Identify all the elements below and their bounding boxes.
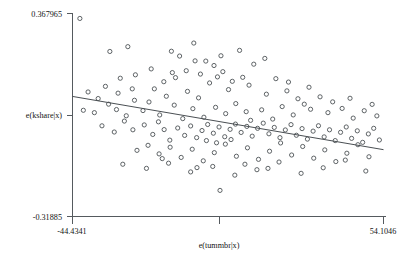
data-point (211, 131, 215, 135)
data-point (285, 89, 289, 93)
data-point (266, 166, 270, 170)
data-point (234, 101, 238, 105)
data-point (212, 63, 216, 67)
data-point (207, 81, 211, 85)
data-point (344, 125, 348, 129)
data-point (189, 124, 193, 128)
data-point (326, 111, 330, 115)
data-point (131, 128, 135, 132)
data-point (264, 92, 268, 96)
data-point (261, 121, 265, 125)
data-point (195, 166, 199, 170)
data-point (166, 161, 170, 165)
data-point (312, 156, 316, 160)
y-axis-title: e(kshare|x) (26, 111, 62, 120)
data-point (323, 148, 327, 152)
data-point (305, 137, 309, 141)
data-point (361, 140, 365, 144)
x-axis-max-tick-label: 54.1046 (370, 227, 397, 236)
data-point (169, 49, 173, 53)
data-point (206, 122, 210, 126)
data-point (211, 164, 215, 168)
data-point (190, 147, 194, 151)
data-point (377, 138, 381, 142)
regression-fit-line (73, 96, 384, 149)
data-point (214, 141, 218, 145)
data-point (338, 130, 342, 134)
data-point (223, 135, 227, 139)
data-point (362, 109, 366, 113)
data-point (178, 54, 182, 58)
data-point (229, 137, 233, 141)
data-point (204, 59, 208, 63)
data-point (176, 126, 180, 130)
data-point (179, 155, 183, 159)
x-axis-min-tick-label: -44.4341 (57, 227, 86, 236)
data-point (223, 142, 227, 146)
data-point (147, 100, 151, 104)
data-point (224, 112, 228, 116)
data-point (195, 136, 199, 140)
data-point (201, 159, 205, 163)
data-point (81, 108, 85, 112)
data-point (86, 90, 90, 94)
data-point (283, 128, 287, 132)
data-point (301, 144, 305, 148)
data-point (327, 128, 331, 132)
data-point (260, 108, 264, 112)
plot-canvas: 0.367965 -0.31885 -44.4341 54.1046 e(ksh… (0, 0, 409, 259)
data-point (149, 67, 153, 71)
data-point (164, 94, 168, 98)
data-point (162, 127, 166, 131)
data-point (299, 171, 303, 175)
data-point (100, 124, 104, 128)
data-point (255, 168, 259, 172)
data-point (144, 166, 148, 170)
data-point (279, 141, 283, 145)
data-point (173, 76, 177, 80)
data-point (160, 157, 164, 161)
data-point (308, 107, 312, 111)
data-point (146, 143, 150, 147)
x-axis-title: e(tummbr|x) (199, 241, 240, 250)
data-point (278, 136, 282, 140)
data-point (184, 69, 188, 73)
data-point (372, 126, 376, 130)
data-point (151, 132, 155, 136)
data-point (108, 49, 112, 53)
data-point (350, 136, 354, 140)
data-point (92, 111, 96, 115)
data-point (256, 157, 260, 161)
data-point (375, 114, 379, 118)
data-point (241, 75, 245, 79)
data-point (239, 130, 243, 134)
data-point (114, 107, 118, 111)
data-point (170, 71, 174, 75)
data-point (370, 102, 374, 106)
data-point (280, 104, 284, 108)
data-point (296, 97, 300, 101)
data-point (233, 173, 237, 177)
data-point (234, 154, 238, 158)
data-point (355, 129, 359, 133)
data-point (215, 75, 219, 79)
data-point (267, 149, 271, 153)
data-point (272, 125, 276, 129)
data-point (218, 188, 222, 192)
data-point (162, 80, 166, 84)
data-point (244, 110, 248, 114)
data-point (307, 85, 311, 89)
data-point (364, 169, 368, 173)
data-point (185, 89, 189, 93)
data-point (286, 80, 290, 84)
scatter-plot-figure: 0.367965 -0.31885 -44.4341 54.1046 e(ksh… (0, 0, 409, 259)
data-point (126, 45, 130, 49)
data-point (302, 102, 306, 106)
data-point (311, 129, 315, 133)
data-point (348, 96, 352, 100)
data-point (343, 158, 347, 162)
data-point (230, 79, 234, 83)
data-point (196, 96, 200, 100)
data-point (168, 145, 172, 149)
data-point (345, 151, 349, 155)
